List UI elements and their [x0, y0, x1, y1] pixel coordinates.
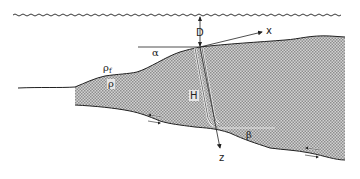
fluid-density-label: ρf [103, 62, 113, 75]
thickness-label: H [190, 90, 198, 101]
x-axis-label: x [266, 25, 272, 36]
sea-surface [13, 14, 341, 16]
depth-label: D [196, 27, 204, 38]
beta-label: β [246, 129, 252, 140]
depth-arrow-head-top [198, 16, 202, 21]
wedge-diagram: D α x H z β ρf ρ [0, 0, 360, 179]
z-axis-label: z [219, 152, 224, 163]
wedge-density-label: ρ [108, 78, 114, 89]
alpha-label: α [152, 47, 159, 58]
